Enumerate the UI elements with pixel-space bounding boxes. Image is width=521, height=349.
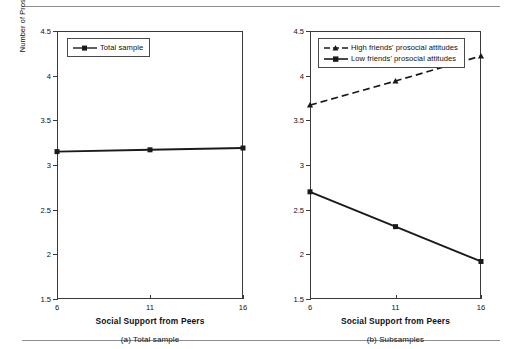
y-axis-tick-label: 2.5: [40, 205, 51, 214]
y-axis-tick-label: 4.5: [40, 27, 51, 36]
data-point-marker: [55, 149, 60, 154]
x-axis-tick-label: 16: [239, 303, 247, 312]
legend-key-solid-square-icon: [72, 43, 98, 53]
figure-top-rule: [22, 6, 500, 7]
y-axis-tick: [53, 299, 58, 300]
data-point-marker: [393, 224, 398, 229]
plot-area-total-sample: Total sample Social Support from Peers (…: [57, 31, 243, 299]
y-axis-tick-label: 4.5: [293, 27, 304, 36]
x-axis-title: Social Support from Peers: [310, 316, 481, 326]
data-point-marker: [148, 147, 153, 152]
y-axis-tick: [53, 165, 58, 166]
y-axis-tick-label: 2: [300, 250, 304, 259]
y-axis-tick: [53, 120, 58, 121]
data-point-marker: [479, 259, 484, 264]
x-axis-tick-label: 11: [146, 303, 154, 312]
x-axis-tick-label: 16: [477, 303, 485, 312]
y-axis-tick-label: 3.5: [40, 116, 51, 125]
y-axis-tick: [53, 31, 58, 32]
y-axis-tick: [306, 120, 311, 121]
x-axis-tick: [243, 295, 244, 299]
x-axis-tick: [57, 295, 58, 299]
plot-area-subsamples: High friends' prosocial attitudes Low fr…: [310, 31, 481, 299]
y-axis-tick-label: 4: [300, 71, 304, 80]
y-axis-tick-label: 1.5: [40, 295, 51, 304]
y-axis-tick: [53, 76, 58, 77]
y-axis-tick-label: 3: [47, 161, 51, 170]
legend-item: Total sample: [72, 42, 143, 53]
y-axis-tick: [306, 299, 311, 300]
legend-key-solid-square-icon: [323, 54, 349, 64]
legend-item: High friends' prosocial attitudes: [323, 42, 458, 53]
data-point-marker: [308, 189, 313, 194]
y-axis-tick: [306, 254, 311, 255]
panel-caption: (a) Total sample: [57, 335, 243, 344]
series-canvas-total-sample: [57, 31, 243, 299]
legend-key-dashed-triangle-icon: [323, 43, 349, 53]
y-axis-tick-label: 1.5: [293, 295, 304, 304]
x-axis-tick-label: 6: [55, 303, 59, 312]
x-axis-tick-label: 6: [308, 303, 312, 312]
legend-label: Total sample: [100, 43, 143, 52]
x-axis-tick: [150, 295, 151, 299]
y-axis-tick: [53, 210, 58, 211]
series-canvas-subsamples: [310, 31, 481, 299]
x-axis-tick: [481, 295, 482, 299]
y-axis-tick: [306, 165, 311, 166]
data-point-marker: [241, 146, 246, 151]
y-axis-tick: [306, 31, 311, 32]
y-axis-title: Number of Prosocial Choices in Problem S…: [18, 0, 32, 86]
y-axis-tick: [306, 210, 311, 211]
x-axis-tick-label: 11: [392, 303, 400, 312]
y-axis-tick-label: 3.5: [293, 116, 304, 125]
chart-panel-subsamples: High friends' prosocial attitudes Low fr…: [258, 14, 521, 334]
x-axis-tick: [396, 295, 397, 299]
y-axis-tick-label: 2: [47, 250, 51, 259]
y-axis-tick-label: 2.5: [293, 205, 304, 214]
panel-caption: (b) Subsamples: [310, 335, 481, 344]
data-point-marker: [478, 53, 484, 59]
legend-label: Low friends' prosocial attitudes: [351, 54, 456, 63]
legend-subsamples: High friends' prosocial attitudes Low fr…: [318, 38, 465, 68]
x-axis-tick: [310, 295, 311, 299]
y-axis-tick-label: 4: [47, 71, 51, 80]
legend-label: High friends' prosocial attitudes: [351, 43, 458, 52]
legend-item: Low friends' prosocial attitudes: [323, 53, 458, 64]
x-axis-title: Social Support from Peers: [57, 316, 243, 326]
y-axis-tick: [306, 76, 311, 77]
legend-total-sample: Total sample: [67, 38, 150, 57]
chart-panel-total-sample: Number of Prosocial Choices in Problem S…: [0, 14, 262, 334]
y-axis-tick-label: 3: [300, 161, 304, 170]
y-axis-tick: [53, 254, 58, 255]
